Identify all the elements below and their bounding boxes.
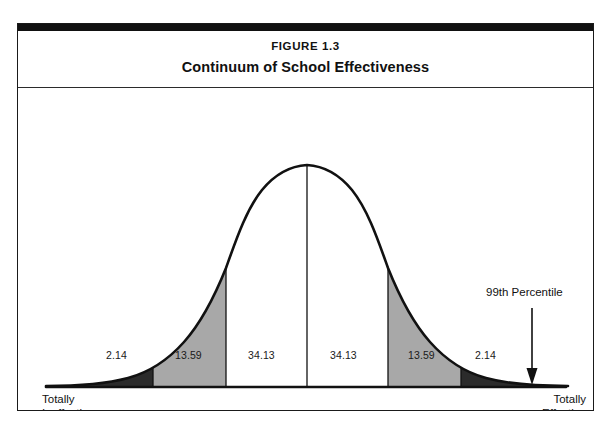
figure-title: Continuum of School Effectiveness [18, 60, 593, 76]
band-left-center [226, 88, 307, 410]
segment-label-left-mid: 13.59 [175, 349, 202, 361]
axis-caption-left-line2: Ineffective [42, 407, 94, 410]
segment-label-right-tail: 2.14 [475, 349, 496, 361]
curve-shaded-bands [18, 88, 593, 410]
figure-number: FIGURE 1.3 [18, 40, 593, 53]
segment-label-left-tail: 2.14 [106, 349, 127, 361]
percentile-annotation-label: 99th Percentile [486, 286, 563, 298]
segment-label-right-center: 34.13 [330, 349, 357, 361]
segment-label-left-center: 34.13 [248, 349, 275, 361]
plot-area: 2.14 13.59 34.13 34.13 13.59 2.14 99th P… [18, 88, 593, 410]
axis-caption-right-line2: Effective [522, 407, 586, 410]
header-rule [18, 24, 593, 31]
band-right-tail [461, 88, 593, 410]
percentile-arrow-icon [527, 308, 538, 385]
figure-root: FIGURE 1.3 Continuum of School Effective… [0, 0, 612, 429]
band-left-tail [18, 88, 153, 410]
band-right-center [307, 88, 388, 410]
axis-caption-right-line1: Totally [522, 393, 586, 407]
axis-caption-left-line1: Totally [42, 393, 94, 407]
figure-title-block: FIGURE 1.3 Continuum of School Effective… [18, 31, 593, 88]
bell-curve-chart [18, 88, 593, 410]
figure-frame: FIGURE 1.3 Continuum of School Effective… [17, 23, 594, 411]
axis-caption-left: Totally Ineffective [42, 393, 94, 410]
axis-caption-right: Totally Effective [522, 393, 586, 410]
segment-label-right-mid: 13.59 [408, 349, 435, 361]
